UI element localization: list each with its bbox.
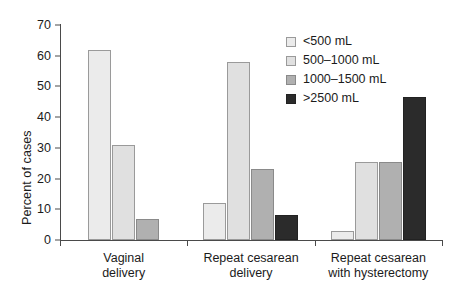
x-axis-tick-mark	[442, 240, 443, 246]
legend-label: 1000–1500 mL	[303, 73, 386, 86]
x-axis-category-label: Repeat cesarean delivery	[187, 251, 314, 281]
legend-swatch-icon	[286, 56, 296, 66]
y-axis-tick-label: 20	[5, 172, 60, 185]
y-axis-tick-label: 10	[5, 203, 60, 216]
y-axis-tick-label: 0	[5, 234, 60, 247]
bar-group	[60, 25, 187, 240]
legend: <500 mL500–1000 mL1000–1500 mL>2500 mL	[286, 33, 386, 109]
y-axis-tick-label: 70	[5, 19, 60, 32]
legend-item: <500 mL	[286, 33, 386, 50]
bar	[355, 162, 378, 240]
y-axis-tick-label: 40	[5, 111, 60, 124]
x-axis-line	[60, 240, 442, 241]
legend-item: 500–1000 mL	[286, 52, 386, 69]
bar	[112, 145, 135, 240]
legend-swatch-icon	[286, 37, 296, 47]
bar	[227, 62, 250, 240]
bar-chart: Percent of cases 010203040506070 <500 mL…	[0, 0, 452, 288]
bar	[251, 169, 274, 240]
x-axis-tick-mark	[60, 240, 61, 246]
legend-swatch-icon	[286, 94, 296, 104]
legend-label: 500–1000 mL	[303, 54, 379, 67]
bar	[379, 162, 402, 240]
bar	[88, 50, 111, 240]
bar	[203, 203, 226, 240]
bar	[275, 215, 298, 240]
y-axis-tick-label: 60	[5, 49, 60, 62]
legend-label: <500 mL	[303, 35, 352, 48]
bar	[403, 97, 426, 240]
bar	[331, 231, 354, 240]
legend-label: >2500 mL	[303, 92, 359, 105]
bar	[136, 219, 159, 241]
legend-swatch-icon	[286, 75, 296, 85]
y-axis-tick-label: 50	[5, 80, 60, 93]
legend-item: 1000–1500 mL	[286, 71, 386, 88]
legend-item: >2500 mL	[286, 90, 386, 107]
x-axis-tick-mark	[187, 240, 188, 246]
x-axis-tick-mark	[315, 240, 316, 246]
x-axis-category-label: Vaginal delivery	[60, 251, 187, 281]
x-axis-category-label: Repeat cesarean with hysterectomy	[315, 251, 442, 281]
y-axis-tick-label: 30	[5, 142, 60, 155]
